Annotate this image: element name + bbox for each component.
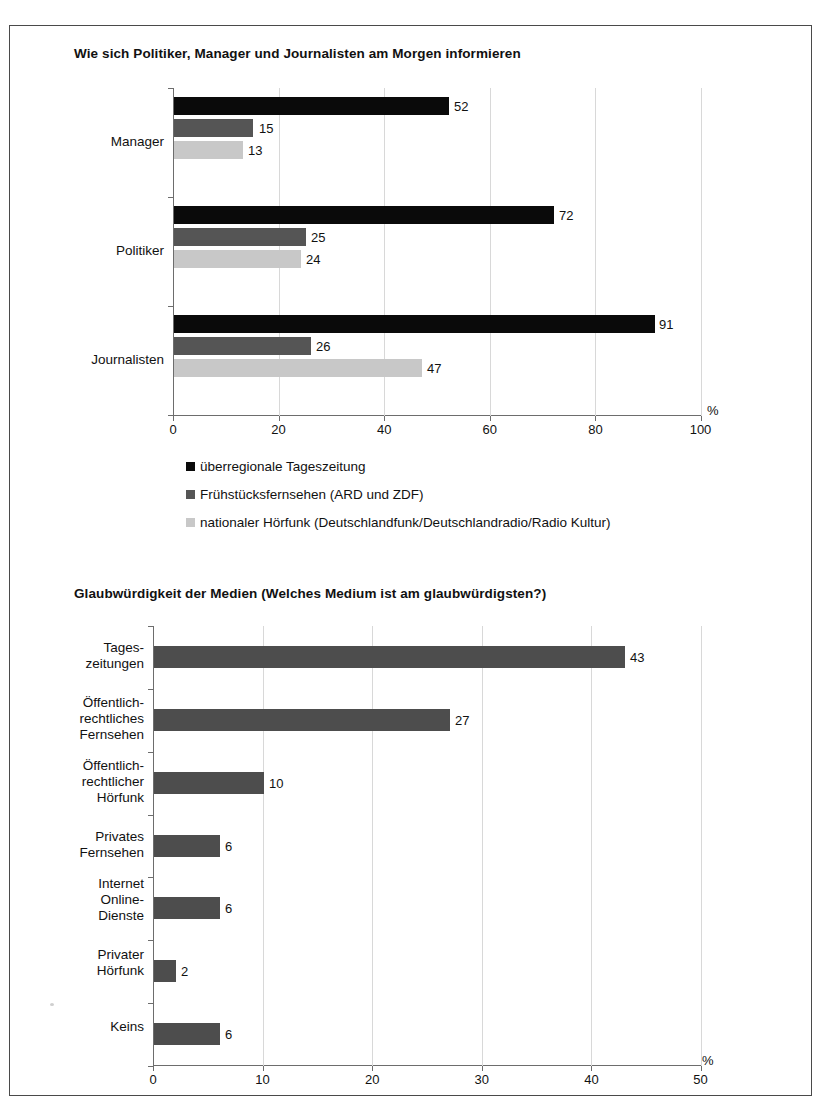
chart-1-category-label-journalisten: Journalisten	[30, 352, 164, 368]
chart-2-category-label-tageszeitungen: Tages-zeitungen	[10, 640, 144, 672]
chart-1-x-axis	[173, 415, 701, 416]
chart-1-value-manager-hoerfunk: 13	[248, 143, 262, 158]
chart-1-bar-journalisten-hoerfunk	[174, 359, 422, 377]
chart-2-xticklabel-50: 50	[693, 1072, 707, 1087]
chart-1-value-journalisten-tageszeitung: 91	[659, 317, 673, 332]
chart-2-xticklabel-20: 20	[365, 1072, 379, 1087]
chart-2-category-label-privater-hoerfunk: PrivaterHörfunk	[10, 947, 144, 979]
chart-1-bar-manager-fruehstuecksfernsehen	[174, 119, 253, 137]
legend-swatch-icon-fruehstuecksfernsehen	[186, 490, 195, 499]
chart-2-bar-privater-hoerfunk	[154, 960, 176, 982]
chart-1-category-label-manager: Manager	[30, 134, 164, 150]
chart-1-xtick-40	[384, 416, 385, 421]
chart-2-ytick-4	[148, 877, 153, 878]
chart-1-value-manager-fruehstuecksfernsehen: 15	[259, 121, 273, 136]
legend-swatch-icon-hoerfunk	[186, 518, 195, 527]
chart-1-xticklabel-100: 100	[690, 422, 712, 437]
chart-1-xtick-100	[701, 416, 702, 421]
page-border-frame: Wie sich Politiker, Manager und Journali…	[9, 25, 812, 1096]
chart-2-x-axis	[153, 1065, 701, 1066]
chart-2-gridline-50	[701, 626, 702, 1066]
chart-2-ytick-5	[148, 940, 153, 941]
chart-1-bar-journalisten-fruehstuecksfernsehen	[174, 337, 311, 355]
chart-1-xticklabel-80: 80	[588, 422, 602, 437]
chart-1-bar-manager-tageszeitung	[174, 97, 449, 115]
chart-1-bar-manager-hoerfunk	[174, 141, 243, 159]
chart-2-bar-privates-fernsehen	[154, 835, 220, 857]
chart-2-bar-keins	[154, 1023, 220, 1045]
legend-swatch-icon-tageszeitung	[186, 462, 195, 471]
chart-2-xtick-10	[263, 1066, 264, 1071]
chart-2-xtick-0	[153, 1066, 154, 1071]
chart-1-xtick-0	[173, 416, 174, 421]
chart-2-category-label-oeffentlich-rechtliches-fernsehen: Öffentlich-rechtlichesFernsehen	[10, 695, 144, 743]
chart-2-xticklabel-0: 0	[149, 1072, 156, 1087]
chart-1-bar-politiker-hoerfunk	[174, 250, 301, 268]
chart-1-ytick-1	[168, 197, 173, 198]
chart-1-ytick-0	[168, 88, 173, 89]
chart-2-xticklabel-30: 30	[475, 1072, 489, 1087]
chart-1-value-politiker-fruehstuecksfernsehen: 25	[311, 230, 325, 245]
chart-2-gridline-30	[482, 626, 483, 1066]
chart-1-xtick-20	[279, 416, 280, 421]
chart-2-value-privates-fernsehen: 6	[225, 839, 232, 854]
chart-2-gridline-20	[372, 626, 373, 1066]
chart-2-bar-internet-online-dienste	[154, 897, 220, 919]
chart-2-category-label-oeffentlich-rechtlicher-hoerfunk: Öffentlich-rechtlicherHörfunk	[10, 758, 144, 806]
chart-2-category-label-internet-online-dienste: InternetOnline-Dienste	[10, 876, 144, 924]
chart-1-category-label-politiker: Politiker	[30, 243, 164, 259]
chart-2-value-tageszeitungen: 43	[630, 650, 644, 665]
chart-1-legend-item-tageszeitung: überregionale Tageszeitung	[186, 459, 366, 474]
chart-2-ytick-2	[148, 752, 153, 753]
chart-2-value-oeffentlich-rechtliches-fernsehen: 27	[455, 713, 469, 728]
chart-1-xtick-60	[490, 416, 491, 421]
chart-2-xtick-40	[591, 1066, 592, 1071]
chart-1-xtick-80	[595, 416, 596, 421]
chart-2-gridline-40	[591, 626, 592, 1066]
chart-1-legend-item-hoerfunk: nationaler Hörfunk (Deutschlandfunk/Deut…	[186, 515, 610, 530]
chart-1-legend-label-tageszeitung: überregionale Tageszeitung	[200, 459, 366, 474]
chart-2-bar-tageszeitungen	[154, 646, 625, 668]
chart-2-ytick-0	[148, 626, 153, 627]
chart-1-bar-politiker-tageszeitung	[174, 206, 554, 224]
chart-2-xticklabel-40: 40	[584, 1072, 598, 1087]
chart-1-plot-area: 52 15 13 72 25 24 91 26 47	[173, 88, 701, 416]
chart-2-bar-oeffentlich-rechtliches-fernsehen	[154, 709, 450, 731]
chart-1-legend-label-fruehstuecksfernsehen: Frühstücksfernsehen (ARD und ZDF)	[200, 487, 424, 502]
chart-2-xtick-30	[482, 1066, 483, 1071]
chart-2-title: Glaubwürdigkeit der Medien (Welches Medi…	[74, 586, 546, 601]
chart-1-ytick-2	[168, 306, 173, 307]
chart-2-bar-oeffentlich-rechtlicher-hoerfunk	[154, 772, 264, 794]
chart-2-value-oeffentlich-rechtlicher-hoerfunk: 10	[269, 776, 283, 791]
chart-1-value-politiker-hoerfunk: 24	[306, 252, 320, 267]
chart-2-category-label-privates-fernsehen: PrivatesFernsehen	[10, 829, 144, 861]
chart-1-xticklabel-40: 40	[377, 422, 391, 437]
chart-2-xtick-20	[372, 1066, 373, 1071]
chart-1-value-politiker-tageszeitung: 72	[559, 208, 573, 223]
scan-speck	[50, 1003, 54, 1006]
chart-2-xaxis-unit: %	[702, 1053, 714, 1068]
chart-2-ytick-3	[148, 815, 153, 816]
chart-1-value-journalisten-fruehstuecksfernsehen: 26	[316, 339, 330, 354]
chart-1-bar-politiker-fruehstuecksfernsehen	[174, 228, 306, 246]
chart-1-gridline-100	[701, 88, 702, 416]
chart-2-category-label-keins: Keins	[10, 1019, 144, 1035]
chart-1-gridline-80	[595, 88, 596, 416]
chart-1-bar-journalisten-tageszeitung	[174, 315, 655, 333]
chart-2-gridline-10	[263, 626, 264, 1066]
chart-1-xticklabel-20: 20	[271, 422, 285, 437]
chart-2-value-privater-hoerfunk: 2	[181, 964, 188, 979]
chart-2-ytick-1	[148, 689, 153, 690]
chart-1-legend-item-fruehstuecksfernsehen: Frühstücksfernsehen (ARD und ZDF)	[186, 487, 424, 502]
chart-1-value-manager-tageszeitung: 52	[454, 99, 468, 114]
chart-1-xticklabel-60: 60	[483, 422, 497, 437]
chart-1-xticklabel-0: 0	[169, 422, 176, 437]
chart-2-plot-area: 43 27 10 6 6 2 6	[153, 626, 701, 1066]
chart-2-value-internet-online-dienste: 6	[225, 901, 232, 916]
chart-1-xaxis-unit: %	[707, 403, 719, 418]
chart-2-xticklabel-10: 10	[255, 1072, 269, 1087]
chart-2-value-keins: 6	[225, 1027, 232, 1042]
chart-2-ytick-6	[148, 1003, 153, 1004]
chart-1-legend-label-hoerfunk: nationaler Hörfunk (Deutschlandfunk/Deut…	[200, 515, 610, 530]
chart-1-gridline-60	[490, 88, 491, 416]
